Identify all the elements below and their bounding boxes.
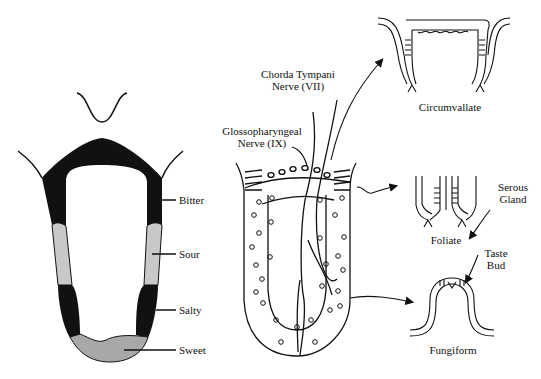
connector-arrows [331, 60, 490, 302]
glossopharyngeal-line1: Glossopharyngeal [218, 125, 306, 137]
taste-bud-line2: Bud [476, 259, 516, 271]
circumvallate-papilla [378, 18, 510, 92]
papillae-circles [250, 196, 347, 345]
fungiform-papilla [410, 278, 494, 336]
chorda-tympani-line2: Nerve (VII) [248, 80, 348, 92]
foliate-papilla [416, 176, 476, 227]
label-foliate: Foliate [416, 234, 476, 246]
glossopharyngeal-line2: Nerve (IX) [218, 137, 306, 149]
label-chorda-tympani: Chorda Tympani Nerve (VII) [248, 68, 348, 92]
label-sour: Sour [179, 248, 200, 260]
label-circumvallate: Circumvallate [410, 101, 490, 113]
serous-gland-line1: Serous [490, 181, 536, 193]
label-bitter: Bitter [179, 194, 204, 206]
label-glossopharyngeal: Glossopharyngeal Nerve (IX) [218, 125, 306, 149]
label-salty: Salty [179, 304, 202, 316]
sweet-zone [70, 334, 148, 362]
tongue-map [18, 93, 183, 362]
label-taste-bud: Taste Bud [476, 247, 516, 271]
bitter-zone [42, 138, 162, 225]
chorda-tympani-line1: Chorda Tympani [248, 68, 348, 80]
papillae-dots-band [268, 166, 330, 178]
uvula-curve [77, 93, 127, 122]
label-serous-gland: Serous Gland [490, 181, 536, 205]
label-sweet: Sweet [179, 344, 206, 356]
taste-diagram [0, 0, 541, 379]
sour-zone-left [52, 223, 72, 285]
serous-gland-line2: Gland [490, 193, 536, 205]
salty-zone-left [58, 285, 80, 338]
taste-bud-line1: Taste [476, 247, 516, 259]
label-fungiform: Fungiform [418, 344, 488, 356]
salty-zone-right [136, 285, 158, 338]
